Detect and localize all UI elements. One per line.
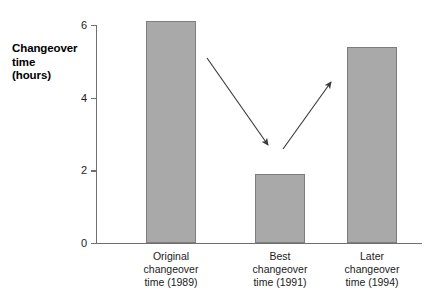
y-tick-mark-6 (91, 25, 97, 26)
y-tick-label-2: 2 (81, 165, 87, 176)
bar-original-changeover-1989 (146, 21, 196, 243)
bar-later-changeover-1994 (347, 47, 397, 243)
plot-area: 6 4 2 0 (96, 20, 422, 244)
y-tick-label-6: 6 (81, 20, 87, 31)
y-tick-mark-2 (91, 170, 97, 171)
x-category-label-0-line-3: time (1989) (115, 276, 227, 289)
y-tick-mark-4 (91, 98, 97, 99)
x-category-label-0-line-1: Original (115, 250, 227, 263)
y-axis-title-line-2: time (12, 56, 108, 70)
y-axis-line (96, 25, 97, 244)
y-axis-title-line-1: Changeover (12, 42, 108, 56)
y-axis-title-line-3: (hours) (12, 69, 108, 83)
y-tick-mark-0 (91, 243, 97, 244)
x-category-label-2: Later changeover time (1994) (316, 250, 428, 288)
y-axis-title: Changeover time (hours) (12, 42, 108, 83)
x-category-label-0-line-2: changeover (115, 263, 227, 276)
changeover-time-bar-chart: Changeover time (hours) 6 4 2 0 (0, 0, 443, 301)
y-tick-label-0: 0 (81, 238, 87, 249)
x-category-label-2-line-3: time (1994) (316, 276, 428, 289)
x-category-label-2-line-2: changeover (316, 263, 428, 276)
bar-best-changeover-1991 (255, 174, 305, 243)
x-category-label-2-line-1: Later (316, 250, 428, 263)
x-category-label-0: Original changeover time (1989) (115, 250, 227, 288)
x-axis-line (96, 243, 422, 244)
y-tick-label-4: 4 (81, 92, 87, 103)
